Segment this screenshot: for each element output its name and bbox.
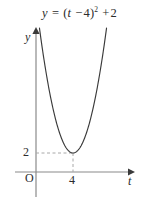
equation-k: 2 [110, 6, 116, 20]
equation-exponent: 2 [94, 5, 98, 14]
y-axis-arrow-icon [32, 27, 39, 34]
y-tick-label-2: 2 [23, 146, 29, 158]
x-axis-label: t [128, 175, 131, 187]
origin-label: O [25, 172, 34, 184]
equation-minus: − [74, 6, 83, 20]
equation-y: y [42, 6, 48, 20]
vertex-guides [36, 153, 73, 172]
x-tick-label-4: 4 [69, 174, 75, 186]
equation-title: y = (t −4)2 +2 [42, 7, 117, 20]
equation-t: t [68, 6, 72, 20]
parabola-curve [39, 28, 106, 153]
parabola-path [39, 28, 106, 153]
parabola-figure: y = (t −4)2 +2 y t O 2 4 [0, 0, 149, 213]
equation-equals: = [51, 6, 60, 20]
y-axis-label: y [25, 31, 30, 43]
